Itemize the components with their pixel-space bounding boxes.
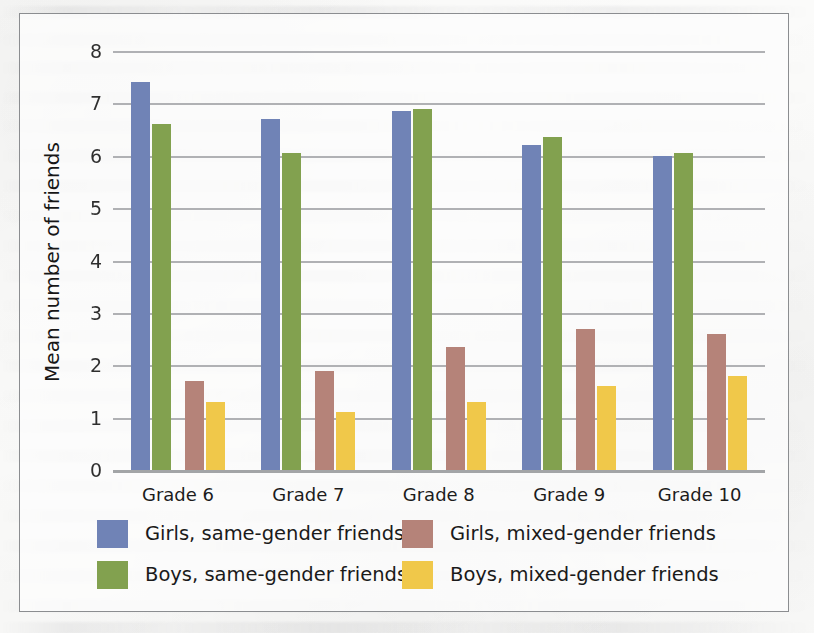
bar (446, 347, 465, 470)
bar-group: Grade 6 (113, 51, 243, 470)
legend-swatch (402, 520, 433, 548)
bar (392, 111, 411, 470)
x-axis-category-label: Grade 9 (533, 484, 605, 505)
bar (543, 137, 562, 470)
bar (206, 402, 225, 470)
bar (576, 329, 595, 470)
y-axis-tick-label: 3 (90, 303, 102, 322)
bar (467, 402, 486, 470)
y-axis-tick-label: 6 (90, 146, 102, 165)
bar-group: Grade 9 (504, 51, 634, 470)
bar (522, 145, 541, 470)
legend-swatch (97, 561, 128, 589)
legend-label: Boys, mixed-gender friends (450, 563, 719, 586)
x-axis-category-label: Grade 10 (658, 484, 742, 505)
y-axis-tick-label: 2 (90, 356, 102, 375)
y-axis-tick-label: 0 (90, 461, 102, 480)
legend-label: Girls, same-gender friends (145, 522, 404, 545)
legend-swatch (402, 561, 433, 589)
bar (152, 124, 171, 470)
y-axis-tick-label: 5 (90, 199, 102, 218)
bar-group: Grade 7 (243, 51, 373, 470)
bar (413, 109, 432, 470)
y-axis-tick-label: 4 (90, 251, 102, 270)
y-axis-tick-label: 8 (90, 42, 102, 61)
legend-label: Boys, same-gender friends (145, 563, 407, 586)
bar (674, 153, 693, 470)
y-axis-title: Mean number of friends (40, 142, 64, 382)
y-axis-tick-label: 7 (90, 94, 102, 113)
bar (728, 376, 747, 470)
legend-swatch (97, 520, 128, 548)
bar (131, 82, 150, 470)
legend-item: Boys, mixed-gender friends (402, 561, 727, 589)
x-axis-category-label: Grade 6 (142, 484, 214, 505)
x-axis-category-label: Grade 8 (403, 484, 475, 505)
bar (707, 334, 726, 470)
bar-group: Grade 10 (635, 51, 765, 470)
bar (597, 386, 616, 470)
bar (282, 153, 301, 470)
bar-group: Grade 8 (374, 51, 504, 470)
bar (185, 381, 204, 470)
gridline: 0 (113, 470, 765, 473)
bar (315, 371, 334, 471)
legend-item: Girls, same-gender friends (97, 520, 402, 548)
x-axis-category-label: Grade 7 (272, 484, 344, 505)
bar-series-container: Grade 6Grade 7Grade 8Grade 9Grade 10 (113, 51, 765, 470)
chart-legend: Girls, same-gender friendsGirls, mixed-g… (97, 513, 727, 595)
y-axis-tick-label: 1 (90, 408, 102, 427)
legend-item: Girls, mixed-gender friends (402, 520, 727, 548)
legend-label: Girls, mixed-gender friends (450, 522, 716, 545)
bar (261, 119, 280, 470)
bar (653, 156, 672, 470)
plot-area: 876543210 Grade 6Grade 7Grade 8Grade 9Gr… (113, 51, 765, 470)
bar (336, 412, 355, 470)
legend-item: Boys, same-gender friends (97, 561, 402, 589)
